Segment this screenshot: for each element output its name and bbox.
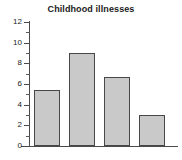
y-axis-tick-label: 12	[0, 18, 22, 26]
y-axis-tick-label: 6	[0, 80, 22, 88]
y-axis-tick-label: 8	[0, 59, 22, 67]
y-axis-tick	[24, 146, 30, 147]
y-axis-tick-label: 10	[0, 39, 22, 47]
bar	[69, 53, 95, 146]
bar	[104, 77, 130, 146]
x-axis-line	[21, 146, 178, 147]
chart-title: Childhood illnesses	[0, 4, 182, 15]
bar-chart-figure: Childhood illnesses 024681012	[0, 0, 182, 160]
bar	[139, 115, 165, 146]
bar	[34, 90, 60, 146]
y-axis-tick-label: 4	[0, 101, 22, 109]
y-axis-tick-label: 0	[0, 142, 22, 150]
y-axis-tick-label: 2	[0, 121, 22, 129]
